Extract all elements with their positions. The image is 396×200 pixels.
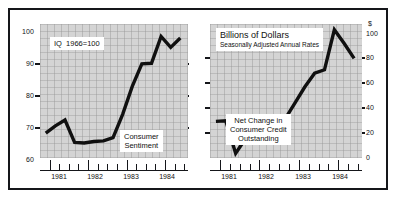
x-tick-1982-q2 <box>269 164 270 170</box>
left-ytick-label-80: 80 <box>14 92 34 99</box>
x-tick-1984-q1 <box>165 160 166 170</box>
left-xtick-label-1982: 1982 <box>80 173 110 180</box>
x-tick-1982-q1 <box>88 160 89 170</box>
consumer-sentiment-label-line2: Sentiment <box>124 141 158 150</box>
x-tick-1982-q4 <box>289 164 290 170</box>
right-xtick-label-1983: 1983 <box>288 173 318 180</box>
index-base-note: IQ 1966=100 <box>50 37 104 50</box>
x-tick-1982-q3 <box>107 164 108 170</box>
units-header: Billions of Dollars Seasonally Adjusted … <box>216 28 323 51</box>
left-xtick-label-1983: 1983 <box>116 173 146 180</box>
x-tick-1984-q2 <box>175 164 176 170</box>
right-ytick-label-40: 40 <box>366 104 388 111</box>
x-tick-1983-q3 <box>146 164 147 170</box>
x-tick-1981-q3 <box>240 164 241 170</box>
consumer-credit-panel: $ 100 80 60 40 20 0 <box>198 10 390 192</box>
x-tick-1983-q4 <box>155 164 156 170</box>
x-tick-1982-q1 <box>259 160 260 170</box>
right-ytick-label-0: 0 <box>366 154 388 161</box>
x-tick-1984-q1 <box>338 160 339 170</box>
left-xtick-label-1984: 1984 <box>152 173 182 180</box>
consumer-sentiment-label-line1: Consumer <box>124 132 159 141</box>
x-tick-1982-q4 <box>117 164 118 170</box>
left-ytick-label-90: 90 <box>14 60 34 67</box>
right-xtick-label-1982: 1982 <box>251 173 281 180</box>
left-ytick-label-70: 70 <box>14 124 34 131</box>
x-tick-1982-q3 <box>279 164 280 170</box>
dollar-sign-label: $ <box>368 20 372 27</box>
consumer-sentiment-label: ConsumerSentiment <box>120 130 163 152</box>
x-tick-1983-q3 <box>319 164 320 170</box>
x-tick-1981-q4 <box>250 164 251 170</box>
x-tick-1984-q3 <box>184 164 185 170</box>
consumer-credit-label-line3: Outstanding <box>238 134 278 143</box>
figure-frame: 100 90 80 70 60 IQ 1 <box>8 8 388 190</box>
right-xtick-label-1981: 1981 <box>214 173 244 180</box>
left-x-axis <box>40 170 188 171</box>
x-tick-1981-q1 <box>220 160 221 170</box>
chart-figure: 100 90 80 70 60 IQ 1 <box>0 0 396 200</box>
x-tick-1983-q1 <box>299 160 300 170</box>
x-tick-1984-q3 <box>358 164 359 170</box>
x-tick-1983-q1 <box>127 160 128 170</box>
x-tick-1981-q2 <box>59 164 60 170</box>
consumer-credit-label: Net Change inConsumer CreditOutstanding <box>226 114 291 145</box>
right-x-axis <box>210 170 362 171</box>
x-tick-1981-q4 <box>78 164 79 170</box>
consumer-credit-label-line2: Consumer Credit <box>230 125 287 134</box>
x-tick-1983-q4 <box>328 164 329 170</box>
right-ytick-label-60: 60 <box>366 79 388 86</box>
x-tick-1983-q2 <box>136 164 137 170</box>
consumer-sentiment-panel: 100 90 80 70 60 IQ 1 <box>10 10 198 192</box>
right-ytick-label-100: 100 <box>366 30 388 37</box>
x-tick-1981-q3 <box>69 164 70 170</box>
right-ytick-label-80: 80 <box>366 54 388 61</box>
x-tick-1983-q2 <box>309 164 310 170</box>
right-xtick-label-1984: 1984 <box>325 173 355 180</box>
x-tick-1981-q1 <box>50 160 51 170</box>
left-ytick-label-60: 60 <box>14 156 34 163</box>
consumer-credit-label-line1: Net Change in <box>234 116 282 125</box>
units-subtitle: Seasonally Adjusted Annual Rates <box>220 41 319 49</box>
right-ytick-label-20: 20 <box>366 129 388 136</box>
x-tick-1981-q2 <box>230 164 231 170</box>
x-tick-1982-q2 <box>98 164 99 170</box>
left-xtick-label-1981: 1981 <box>44 173 74 180</box>
x-tick-1984-q2 <box>348 164 349 170</box>
left-ytick-label-100: 100 <box>14 28 34 35</box>
units-title: Billions of Dollars <box>220 30 319 41</box>
